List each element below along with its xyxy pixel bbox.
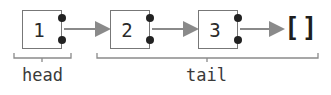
list-node-3: 3	[198, 10, 238, 49]
pointer-dot-icon	[234, 14, 242, 22]
empty-list-terminator: []	[284, 12, 319, 42]
head-brace	[14, 53, 71, 62]
pointer-dot-icon	[58, 14, 66, 22]
tail-brace	[97, 53, 318, 62]
node-value: 2	[111, 11, 143, 48]
tail-label: tail	[186, 65, 227, 85]
node-value: 1	[23, 11, 55, 48]
list-node-1: 1	[22, 10, 62, 49]
pointer-dot-icon	[146, 14, 154, 22]
pointer-dot-icon	[146, 36, 154, 44]
pointer-dot-icon	[58, 36, 66, 44]
pointer-dot-icon	[234, 36, 242, 44]
node-value: 3	[199, 11, 231, 48]
list-node-2: 2	[110, 10, 150, 49]
head-label: head	[22, 65, 63, 85]
